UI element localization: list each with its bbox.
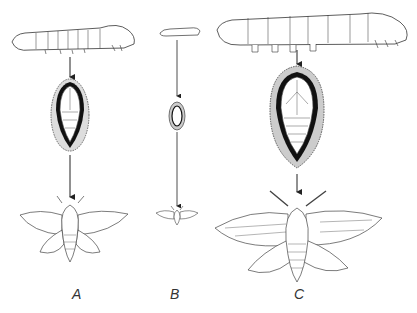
column-c <box>215 13 407 282</box>
cocoon-b <box>169 102 185 130</box>
lifecycle-figure <box>0 0 417 313</box>
column-a <box>12 25 134 262</box>
cocoon-c <box>270 66 324 168</box>
larva-c <box>217 13 407 52</box>
moth-c <box>215 191 382 282</box>
column-label-b: B <box>170 286 179 302</box>
cocoon-a <box>51 79 89 151</box>
moth-b <box>156 206 198 225</box>
larva-a <box>12 25 134 54</box>
column-label-a: A <box>72 286 81 302</box>
column-label-c: C <box>294 286 304 302</box>
larva-b <box>160 28 200 36</box>
column-b <box>156 28 200 225</box>
moth-a <box>20 196 128 262</box>
